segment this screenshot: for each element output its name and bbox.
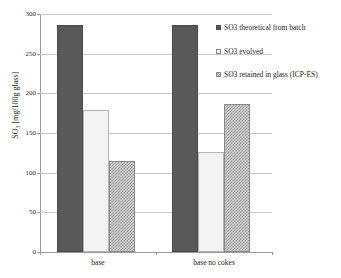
x-category-label-base: base	[38, 258, 158, 267]
legend-item-so3-theoretical: SO3 theoretical from batch	[216, 24, 341, 32]
legend-swatch-white-square-icon	[216, 49, 221, 54]
y-axis-title-main: SO	[11, 129, 20, 139]
gridline-300	[40, 14, 272, 15]
x-tick-mark-mid	[156, 252, 157, 255]
legend-swatch-hatched-square-icon	[216, 72, 221, 77]
y-axis-title-units: [mg/100g glass]	[11, 72, 20, 126]
bar-base-so3-theoretical	[57, 25, 83, 252]
bar-base-so3-retained	[109, 161, 135, 252]
legend-item-so3-retained: SO3 retained in glass (ICP-ES)	[216, 71, 341, 79]
x-tick-mark-end	[272, 252, 273, 255]
bar-base-no-cokes-so3-theoretical	[172, 25, 198, 252]
legend-label-so3-evolved: SO3 evolved	[224, 48, 263, 56]
chart-legend: SO3 theoretical from batch SO3 evolved S…	[216, 24, 341, 95]
x-tick-mark-start	[40, 252, 41, 255]
legend-label-so3-retained: SO3 retained in glass (ICP-ES)	[224, 71, 318, 79]
bar-base-so3-evolved	[83, 110, 109, 252]
bar-base-no-cokes-so3-retained	[224, 104, 250, 252]
legend-swatch-dark-square-icon	[216, 25, 221, 30]
y-axis-title-subscript: 3	[15, 126, 21, 129]
chart-figure: 300 250 200 150 100 50 0 SO3 [mg/100g gl…	[0, 0, 341, 278]
y-tick-label-300: 300	[2, 11, 36, 18]
legend-item-so3-evolved: SO3 evolved	[216, 48, 341, 56]
y-tick-label-0: 0	[2, 249, 36, 256]
legend-label-so3-theoretical: SO3 theoretical from batch	[224, 24, 305, 32]
bar-base-no-cokes-so3-evolved	[198, 152, 224, 252]
y-tick-label-50: 50	[2, 209, 36, 216]
x-category-label-base-no-cokes: base no cokes	[154, 258, 274, 267]
y-axis-title: SO3 [mg/100g glass]	[11, 35, 22, 175]
